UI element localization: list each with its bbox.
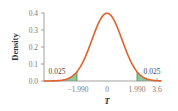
right-tail-area-label: 0.025 — [144, 67, 161, 76]
t-distribution-chart: 0.4 0.3 0.2 0.1 0.0 Density −1.990 0 1.9… — [0, 0, 178, 111]
left-tail-area-label: 0.025 — [49, 67, 66, 76]
y-tick-label-0.2: 0.2 — [29, 43, 39, 52]
y-tick-label-0.3: 0.3 — [29, 26, 39, 35]
y-ticks — [41, 13, 44, 81]
y-tick-label-0.4: 0.4 — [29, 9, 39, 18]
x-tick-label-zero: 0 — [105, 85, 109, 94]
y-tick-label-0.0: 0.0 — [29, 77, 39, 86]
y-axis-title: Density — [10, 33, 20, 61]
x-tick-label-max: 3.6 — [152, 85, 162, 94]
y-tick-label-0.1: 0.1 — [29, 60, 39, 69]
x-tick-label-pos-critical: 1.990 — [129, 85, 146, 94]
x-axis-title: T — [104, 96, 110, 106]
x-tick-label-neg-critical: −1.990 — [67, 85, 88, 94]
